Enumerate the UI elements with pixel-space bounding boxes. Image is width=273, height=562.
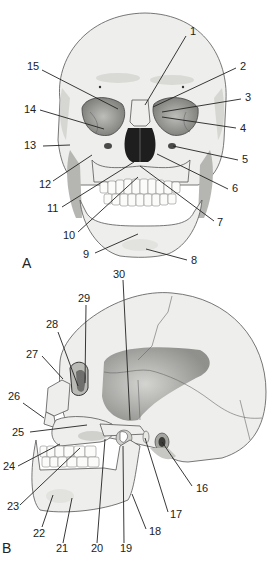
lateral-skull-illustration	[32, 293, 266, 512]
panel-label-b: B	[2, 540, 11, 556]
label-9: 9	[83, 248, 89, 260]
panel-label-a: A	[22, 255, 32, 271]
label-8: 8	[191, 254, 197, 266]
label-11: 11	[47, 202, 58, 214]
leader-line-26	[23, 403, 44, 418]
label-27: 27	[26, 348, 38, 360]
anterior-skull-illustration	[58, 13, 226, 257]
label-23: 23	[7, 500, 19, 512]
label-19: 19	[120, 542, 132, 554]
label-3: 3	[245, 91, 251, 103]
label-16: 16	[196, 482, 208, 494]
label-29: 29	[78, 292, 90, 304]
label-12: 12	[39, 178, 51, 190]
label-10: 10	[63, 229, 75, 241]
label-6: 6	[232, 182, 238, 194]
teeth-lateral	[40, 446, 99, 467]
label-25: 25	[12, 426, 24, 438]
label-26: 26	[8, 390, 20, 402]
label-14: 14	[24, 103, 36, 115]
skull-anatomy-figure: 123456789101112131415 161718192021222324…	[0, 0, 273, 562]
teeth-anterior	[100, 179, 180, 206]
label-30: 30	[113, 268, 125, 280]
label-2: 2	[240, 60, 246, 72]
label-5: 5	[242, 153, 248, 165]
label-7: 7	[217, 216, 223, 228]
label-1: 1	[190, 25, 196, 37]
label-17: 17	[170, 508, 182, 520]
label-20: 20	[91, 542, 103, 554]
label-22: 22	[33, 527, 45, 539]
label-13: 13	[24, 139, 36, 151]
label-15: 15	[27, 60, 39, 72]
label-21: 21	[56, 542, 68, 554]
label-24: 24	[3, 460, 15, 472]
label-4: 4	[240, 122, 246, 134]
leader-line-18	[132, 494, 146, 529]
label-28: 28	[46, 318, 58, 330]
label-18: 18	[149, 525, 161, 537]
